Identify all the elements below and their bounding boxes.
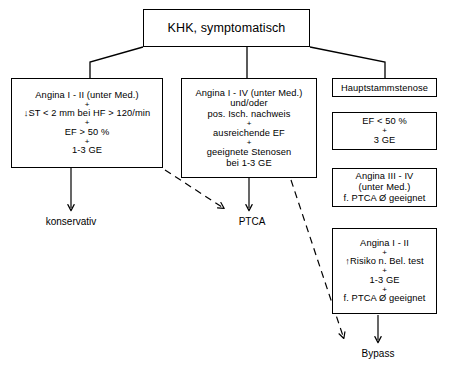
- node-angina-3-4-no-ptca[interactable]: Angina III - IV (unter Med.) f. PTCA Ø g…: [332, 168, 437, 207]
- node-root-label: KHK, symptomatisch: [168, 21, 286, 35]
- node-angina12-line-6: +: [382, 286, 387, 294]
- node-left-line-2: +: [85, 101, 90, 109]
- outcome-bypass[interactable]: Bypass: [348, 348, 408, 359]
- edge-root-to-left: [90, 47, 143, 78]
- node-khk-symptomatisch[interactable]: KHK, symptomatisch: [143, 9, 310, 47]
- node-angina-1-2-high-risk[interactable]: Angina I - II + ↑Risiko n. Bel. test + 1…: [332, 228, 437, 314]
- node-middle-line-7: geeignete Stenosen: [207, 147, 292, 158]
- node-left-line-6: +: [85, 138, 90, 146]
- edge-root-to-hauptstamm: [310, 47, 385, 78]
- node-ef-line-3: 3 GE: [374, 135, 396, 146]
- diagram-canvas: KHK, symptomatisch Angina I - II (unter …: [0, 0, 449, 372]
- node-left-line-4: +: [85, 119, 90, 127]
- outcome-konservativ[interactable]: konservativ: [24, 216, 118, 227]
- node-middle-line-1: Angina I - IV (unter Med.): [196, 88, 303, 99]
- node-angina34-line-3: f. PTCA Ø geeignet: [344, 193, 426, 204]
- node-middle-line-8: bei 1-3 GE: [226, 158, 271, 169]
- node-middle-line-4: +: [247, 120, 252, 128]
- node-ef-line-2: +: [382, 127, 387, 135]
- outcome-ptca[interactable]: PTCA: [222, 216, 282, 227]
- node-angina12-line-1: Angina I - II: [360, 238, 409, 249]
- node-angina34-line-2: (unter Med.): [359, 182, 411, 193]
- node-middle-line-2: und/oder: [230, 98, 268, 109]
- node-left-line-7: 1-3 GE: [72, 145, 102, 156]
- node-hauptstammstenose[interactable]: Hauptstammstenose: [332, 78, 437, 97]
- node-hauptstamm-label: Hauptstammstenose: [341, 83, 428, 93]
- node-angina34-line-1: Angina III - IV: [356, 171, 414, 182]
- node-angina-1-2-med[interactable]: Angina I - II (unter Med.) + ↓ST < 2 mm …: [11, 78, 163, 168]
- node-angina12-line-7: f. PTCA Ø geeignet: [344, 293, 426, 304]
- node-angina-1-4-med[interactable]: Angina I - IV (unter Med.) und/oder pos.…: [181, 78, 317, 178]
- node-left-line-1: Angina I - II (unter Med.): [35, 90, 138, 101]
- node-angina12-line-2: +: [382, 249, 387, 257]
- node-ef-under-50[interactable]: EF < 50 % + 3 GE: [332, 112, 437, 150]
- node-middle-line-6: +: [247, 139, 252, 147]
- node-angina12-line-4: +: [382, 267, 387, 275]
